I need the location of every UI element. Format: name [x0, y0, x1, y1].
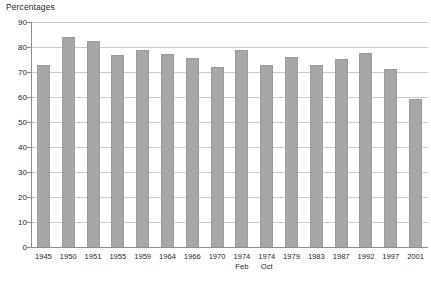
gridline-0	[31, 247, 428, 248]
y-tick-label-40: 40	[5, 143, 27, 152]
bar-slot	[354, 22, 379, 247]
bar-1997[interactable]	[384, 69, 397, 248]
x-tick-label-1992: 1992	[354, 252, 379, 282]
bar-1964[interactable]	[161, 54, 174, 247]
bar-1959[interactable]	[136, 50, 149, 247]
y-tick-label-90: 90	[5, 18, 27, 27]
bar-series	[31, 22, 428, 247]
x-tick-label-1945: 1945	[31, 252, 56, 282]
bar-1955[interactable]	[111, 55, 124, 247]
y-tick-label-50: 50	[5, 118, 27, 127]
bar-slot	[155, 22, 180, 247]
bar-1974-Feb[interactable]	[235, 50, 248, 247]
bar-1987[interactable]	[335, 59, 348, 247]
bar-chart: Percentages 0102030405060708090 19451950…	[0, 0, 431, 286]
plot-area	[31, 22, 428, 247]
y-tick-label-60: 60	[5, 93, 27, 102]
y-tick-label-0: 0	[5, 243, 27, 252]
x-tick-label-1959: 1959	[130, 252, 155, 282]
y-axis-labels: 0102030405060708090	[0, 22, 27, 248]
y-tick-0	[27, 247, 31, 248]
x-tick-label-1964: 1964	[155, 252, 180, 282]
bar-1966[interactable]	[186, 58, 199, 248]
bar-slot	[378, 22, 403, 247]
x-tick-label-2001: 2001	[403, 252, 428, 282]
y-tick-label-80: 80	[5, 43, 27, 52]
bar-slot	[304, 22, 329, 247]
x-tick-label-1951: 1951	[81, 252, 106, 282]
bar-slot	[31, 22, 56, 247]
bar-1950[interactable]	[62, 37, 75, 247]
bar-slot	[130, 22, 155, 247]
bar-1951[interactable]	[87, 41, 100, 248]
bar-1979[interactable]	[285, 57, 298, 247]
bar-slot	[329, 22, 354, 247]
bar-slot	[230, 22, 255, 247]
bar-slot	[279, 22, 304, 247]
y-tick-label-70: 70	[5, 68, 27, 77]
bar-slot	[180, 22, 205, 247]
x-tick-label-1955: 1955	[105, 252, 130, 282]
x-tick-label-1974-Feb: 1974Feb	[230, 252, 255, 282]
x-tick-label-1997: 1997	[378, 252, 403, 282]
bar-2001[interactable]	[409, 99, 422, 248]
bar-slot	[403, 22, 428, 247]
bar-slot	[105, 22, 130, 247]
x-tick-label-1983: 1983	[304, 252, 329, 282]
x-tick-label-1979: 1979	[279, 252, 304, 282]
x-tick-label-1987: 1987	[329, 252, 354, 282]
bar-slot	[81, 22, 106, 247]
y-tick-label-10: 10	[5, 218, 27, 227]
x-tick-label-1974-Oct: 1974Oct	[254, 252, 279, 282]
bar-1992[interactable]	[359, 53, 372, 247]
bar-slot	[254, 22, 279, 247]
chart-axis-title: Percentages	[6, 2, 55, 12]
x-tick-label-1970: 1970	[205, 252, 230, 282]
bar-slot	[56, 22, 81, 247]
bar-1970[interactable]	[211, 67, 224, 247]
bar-1983[interactable]	[310, 65, 323, 247]
y-tick-label-30: 30	[5, 168, 27, 177]
bar-slot	[205, 22, 230, 247]
x-tick-label-1966: 1966	[180, 252, 205, 282]
bar-1974-Oct[interactable]	[260, 65, 273, 247]
x-tick-label-1950: 1950	[56, 252, 81, 282]
bar-1945[interactable]	[37, 65, 50, 247]
x-axis-labels: 194519501951195519591964196619701974Feb1…	[31, 252, 428, 282]
y-tick-label-20: 20	[5, 193, 27, 202]
